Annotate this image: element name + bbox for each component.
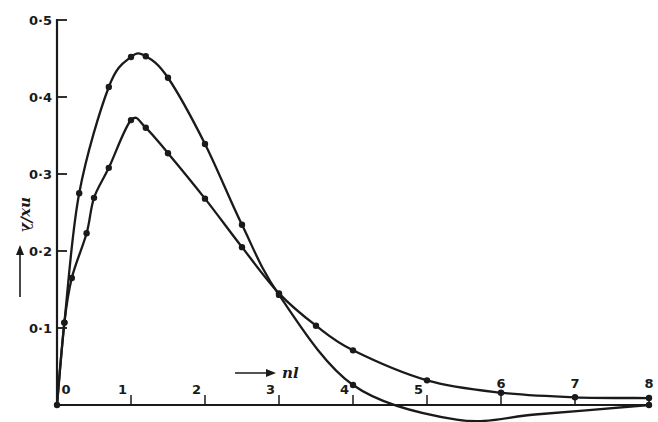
data-point [128,54,134,60]
data-point [646,402,652,408]
x-tick-label: 1 [118,382,127,397]
y-tick-label: 0·5 [29,13,52,28]
data-point [69,275,75,281]
data-point [165,150,171,156]
x-tick-label: 6 [496,376,505,391]
chart: 0·10·20·30·40·5 012345678 nx/λ nl [0,0,658,422]
y-tick-label: 0·4 [29,90,52,105]
x-tick-label: 0 [61,382,70,397]
data-point [202,195,208,201]
data-point [76,190,82,196]
x-axis-label: nl [282,364,299,382]
x-tick-label: 5 [414,382,423,397]
data-point [350,382,356,388]
x-axis-arrowhead-icon [266,369,276,377]
data-point [572,394,578,400]
x-tick-label: 2 [192,382,201,397]
data-series [54,53,652,421]
x-axis-label-group: nl [235,364,299,382]
data-point [202,141,208,147]
data-point [143,53,149,59]
curve-line [57,53,649,421]
y-tick-label: 0·2 [29,244,52,259]
series-upper [54,53,652,421]
data-point [498,389,504,395]
data-point [646,395,652,401]
y-axis-arrowhead-icon [16,245,24,255]
x-tick-label: 4 [340,382,349,397]
data-point [106,165,112,171]
data-point [143,125,149,131]
data-point [83,230,89,236]
x-axis-ticks: 012345678 [61,376,653,405]
y-axis-label: nx/λ [18,197,36,233]
y-tick-label: 0·3 [29,167,52,182]
series-lower [57,117,652,405]
data-point [239,244,245,250]
data-point [106,84,112,90]
data-point [128,117,134,123]
y-axis-ticks: 0·10·20·30·40·5 [29,13,67,336]
data-point [276,290,282,296]
curve-line [57,118,649,405]
data-point [165,75,171,81]
x-tick-label: 7 [570,376,579,391]
x-tick-label: 8 [644,376,653,391]
x-tick-label: 3 [266,382,275,397]
data-point [61,319,67,325]
data-point [239,222,245,228]
data-point [91,195,97,201]
data-point [313,322,319,328]
data-point [350,347,356,353]
y-tick-label: 0·1 [29,321,52,336]
data-point [424,377,430,383]
